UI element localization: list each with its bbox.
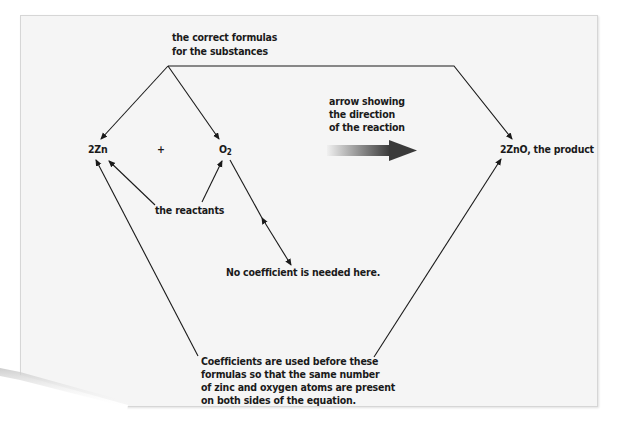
reactants-label: the reactants [155,204,224,217]
formulas-label-line2: for the substances [172,45,268,58]
reactant-o2: O2 [219,143,232,156]
reactant-2zn: 2Zn [88,143,108,156]
no-coefficient-label: No coefficient is needed here. [226,266,380,279]
o2-to-no-coeff-line [230,160,262,218]
arrow-label-line1: arrow showing [329,95,405,108]
arrow-label-line3: of the reaction [329,121,405,134]
coeff-to-2zn-line [96,160,198,356]
arrow-label-line2: the direction [329,108,395,121]
reactants-to-o2-line [202,161,222,202]
product-2zno: 2ZnO, the product [500,143,594,156]
formulas-label-line1: the correct formulas [172,31,277,44]
reaction-arrow-icon [327,140,417,161]
coeff-to-product-line [374,159,501,357]
coefficients-note-line2: formulas so that the same number [201,368,379,381]
coefficients-note-line1: Coefficients are used before these [201,355,378,368]
formulas-to-2zn-line [101,66,168,139]
coefficients-note-line3: of zinc and oxygen atoms are present [201,381,395,394]
formulas-to-o2-line [168,66,219,139]
plus-sign: + [157,143,165,156]
coefficients-note-line4: on both sides of the equation. [201,394,356,407]
